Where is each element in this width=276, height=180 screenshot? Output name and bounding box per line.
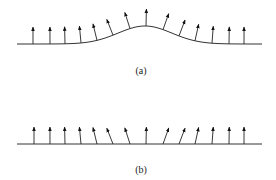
normal-arrow-icon <box>79 26 81 43</box>
panel-b-flat-surface: (b) <box>17 127 262 176</box>
normal-arrow-icon <box>163 128 169 144</box>
normal-arrow-icon <box>179 128 185 144</box>
normal-vectors-figure: (a) (b) <box>0 0 276 180</box>
normal-arrow-icon <box>163 14 169 30</box>
normal-arrow-icon <box>107 128 113 144</box>
normal-arrow-icon <box>212 26 213 43</box>
normal-arrow-icon <box>195 24 199 41</box>
panel-a-label: (a) <box>135 65 146 77</box>
normal-arrow-icon <box>125 128 130 144</box>
normal-arrows-b <box>34 127 244 144</box>
panel-a-bump-surface: (a) <box>17 9 262 77</box>
normal-arrow-icon <box>179 20 185 36</box>
bump-surface-curve <box>17 26 262 44</box>
normal-arrow-icon <box>93 24 97 41</box>
panel-b-label: (b) <box>135 164 147 176</box>
normal-arrow-icon <box>93 127 97 144</box>
normal-arrow-icon <box>107 19 113 35</box>
normal-arrow-icon <box>195 127 199 144</box>
normal-arrow-icon <box>125 12 130 28</box>
normal-arrow-icon <box>79 127 81 144</box>
normal-arrow-icon <box>212 127 213 144</box>
